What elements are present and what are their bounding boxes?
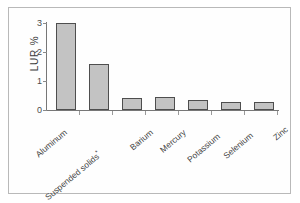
bar-barium bbox=[122, 98, 142, 111]
x-tick-mark-3 bbox=[178, 111, 179, 115]
y-tick-label-0: 0 bbox=[22, 106, 42, 115]
y-tick-mark-0 bbox=[43, 110, 47, 111]
x-tick-mark-6 bbox=[277, 111, 278, 115]
bar-potassium bbox=[188, 100, 208, 110]
bar-suspended-solids bbox=[89, 64, 109, 110]
bar-mercury bbox=[155, 97, 175, 110]
y-axis-line bbox=[46, 22, 47, 111]
x-tick-mark-4 bbox=[211, 111, 212, 115]
x-tick-mark-5 bbox=[244, 111, 245, 115]
bar-aluminum bbox=[56, 23, 76, 110]
x-tick-mark-1 bbox=[112, 111, 113, 115]
x-label-mercury: Mercury bbox=[121, 128, 188, 186]
y-tick-label-3: 3 bbox=[22, 19, 42, 28]
y-tick-mark-3 bbox=[43, 23, 47, 24]
bar-selenium bbox=[221, 102, 241, 110]
y-tick-mark-1 bbox=[43, 81, 47, 82]
x-tick-mark-2 bbox=[145, 111, 146, 115]
x-tick-mark-0 bbox=[79, 111, 80, 115]
bar-chart: LUR % 0 1 2 3 Aluminum Suspended solids*… bbox=[0, 0, 300, 203]
y-tick-label-1: 1 bbox=[22, 77, 42, 86]
y-tick-label-2: 2 bbox=[22, 48, 42, 57]
y-tick-mark-2 bbox=[43, 52, 47, 53]
bar-zinc bbox=[254, 102, 274, 110]
